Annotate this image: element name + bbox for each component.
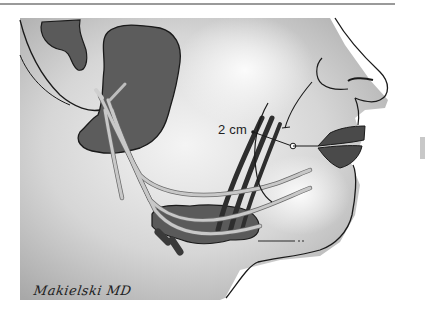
page-edge-tab [420,137,425,159]
facial-anatomy-illustration [0,0,425,320]
distance-label: 2 cm [218,122,247,137]
artist-signature: Makielski MD [33,283,133,298]
